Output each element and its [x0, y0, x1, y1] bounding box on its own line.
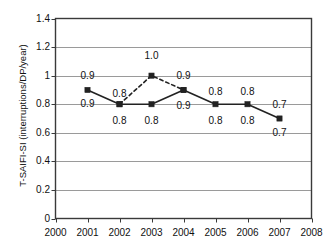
- data-point-marker: [149, 73, 154, 78]
- y-axis-tick-label: 0.8: [20, 99, 50, 109]
- y-axis-tick-label: 0.2: [20, 185, 50, 195]
- data-point-marker: [85, 87, 90, 92]
- y-axis-tick-label: 0.6: [20, 128, 50, 138]
- plot-frame: [56, 19, 312, 219]
- label-2006-below: 0.8: [231, 116, 265, 126]
- label-2003-dashed-above: 1.0: [135, 51, 169, 61]
- label-2004-above: 0.9: [167, 71, 201, 81]
- label-2005-below: 0.8: [199, 116, 233, 126]
- y-axis-tick-labels: 00.20.40.60.811.21.4: [18, 0, 50, 251]
- label-2001-below: 0.9: [71, 99, 105, 109]
- label-2003-below: 0.8: [135, 116, 169, 126]
- label-2004-below: 0.9: [167, 101, 201, 111]
- y-axis-tick-label: 0: [20, 214, 50, 224]
- chart-container: T-SAIFI-SI (interruptions/DP/year) 00.20…: [0, 0, 329, 251]
- data-point-marker: [277, 116, 282, 121]
- y-axis-tick-label: 0.4: [20, 156, 50, 166]
- axis-tick-marks: [52, 20, 313, 223]
- label-2006-above: 0.8: [231, 87, 265, 97]
- data-point-marker: [213, 102, 218, 107]
- x-axis-tick-labels: 200020012002200320042005200620072008: [0, 228, 329, 244]
- y-axis-tick-label: 1: [20, 71, 50, 81]
- data-point-marker: [117, 102, 122, 107]
- data-point-marker: [245, 102, 250, 107]
- gridlines: [56, 48, 312, 191]
- label-2001-above: 0.9: [71, 71, 105, 81]
- data-point-marker: [181, 87, 186, 92]
- label-2007-above: 0.7: [263, 100, 297, 110]
- x-axis-tick-label: 2008: [290, 228, 329, 238]
- label-2005-above: 0.8: [199, 87, 233, 97]
- label-2002-below: 0.8: [103, 116, 137, 126]
- label-2002-above: 0.8: [103, 89, 137, 99]
- label-2007-below: 0.7: [263, 128, 297, 138]
- y-axis-tick-label: 1.2: [20, 42, 50, 52]
- data-point-marker: [149, 102, 154, 107]
- y-axis-tick-label: 1.4: [20, 14, 50, 24]
